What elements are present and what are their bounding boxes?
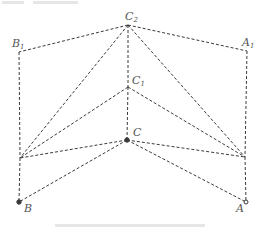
- point-marker-B: [17, 200, 21, 204]
- edge-C2-B1: [19, 25, 128, 52]
- edge-C2-M2: [128, 25, 245, 157]
- point-marker-A: [244, 200, 248, 204]
- edge-C-A: [127, 140, 246, 202]
- point-marker-C: [125, 138, 129, 142]
- diagram-canvas: C2B1A1C1CBA: [0, 0, 264, 228]
- point-label-A: A: [235, 202, 244, 215]
- edge-C1-M1: [20, 87, 128, 158]
- point-label-B1: B1: [11, 37, 25, 51]
- edge-C2-A1: [128, 25, 247, 51]
- edge-C-M2: [127, 140, 245, 157]
- edge-C1-M2: [128, 87, 245, 157]
- point-label-C: C: [133, 126, 142, 139]
- point-label-B: B: [23, 202, 32, 215]
- edge-C2-M1: [20, 25, 128, 158]
- edge-M1-B: [19, 158, 20, 202]
- edge-B1-M1: [19, 52, 20, 158]
- geometry-figure: C2B1A1C1CBA: [0, 0, 264, 228]
- point-label-C2: C2: [125, 10, 138, 24]
- edge-M2-A: [245, 157, 246, 202]
- edge-C-B: [19, 140, 127, 202]
- point-label-C1: C1: [132, 74, 145, 88]
- edge-A1-M2: [245, 51, 247, 157]
- edge-C-M1: [20, 140, 127, 158]
- point-label-A1: A1: [241, 36, 254, 50]
- edge-C1-C: [127, 87, 128, 140]
